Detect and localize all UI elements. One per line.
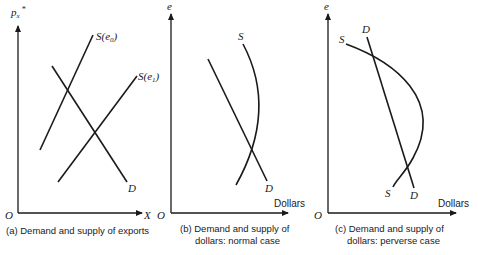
caption-line-2: dollars: perverse case (347, 235, 440, 246)
origin-label: O (5, 209, 13, 221)
diagram-canvas: px* O X S(e0) S(e1) D (a) Demand and sup… (0, 0, 478, 255)
y-axis-label: px* (10, 5, 26, 20)
caption-line-1: (b) Demand and supply of (180, 223, 290, 234)
supply-label: S (238, 30, 244, 42)
demand-curve (367, 37, 414, 188)
caption-line-1: (c) Demand and supply of (335, 223, 444, 234)
demand-label-top: D (361, 23, 370, 35)
demand-label-bottom: D (409, 189, 418, 201)
demand-label: D (264, 182, 273, 194)
supply-e1-label: S(e1) (138, 70, 160, 84)
supply-curve-e1 (58, 76, 137, 182)
y-axis-label: e (167, 0, 172, 12)
y-axis-label: e (324, 0, 329, 12)
origin-label: O (157, 209, 165, 221)
supply-curve-e0 (40, 35, 93, 150)
supply-curve (236, 44, 259, 185)
caption: (a) Demand and supply of exports (6, 225, 149, 236)
demand-curve (52, 66, 127, 182)
x-axis-label: Dollars (274, 198, 305, 209)
panel-b-normal-case: e O Dollars S D (b) Demand and supply of… (157, 0, 305, 246)
x-axis-label: Dollars (438, 198, 469, 209)
x-axis-label: X (143, 209, 152, 221)
panel-a-exports: px* O X S(e0) S(e1) D (a) Demand and sup… (5, 5, 160, 236)
panel-c-perverse-case: e O Dollars S S D D (c) Demand and suppl… (314, 0, 469, 246)
origin-label: O (314, 209, 322, 221)
demand-label: D (127, 182, 136, 194)
supply-label-top: S (339, 33, 345, 45)
caption-line-2: dollars: normal case (195, 235, 280, 246)
supply-label-bottom: S (385, 187, 391, 199)
supply-curve-backward-bending (346, 44, 423, 187)
supply-e0-label: S(e0) (96, 30, 118, 44)
